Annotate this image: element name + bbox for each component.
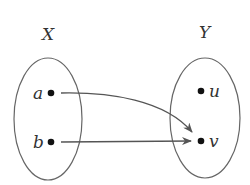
element-u-label: u [209, 81, 220, 101]
element-a-dot [48, 90, 55, 97]
set-x-label: X [40, 24, 55, 44]
set-y-label: Y [199, 22, 212, 42]
set-y-ellipse [170, 58, 240, 178]
set-x-ellipse [14, 58, 82, 180]
element-u-dot [198, 88, 205, 95]
element-a-label: a [33, 83, 43, 103]
element-v-dot [198, 138, 205, 145]
element-b-label: b [33, 132, 44, 152]
function-diagram: X a b Y u v [0, 0, 250, 185]
element-v-label: v [209, 131, 219, 151]
arrow-b-to-v [61, 141, 191, 142]
element-b-dot [48, 139, 55, 146]
